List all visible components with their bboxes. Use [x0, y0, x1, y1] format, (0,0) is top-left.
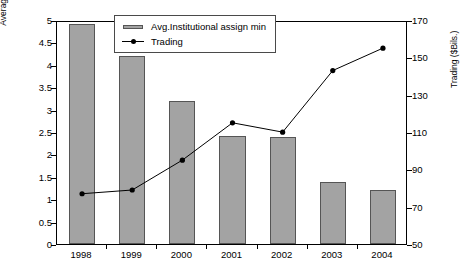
right-tick-label: 70	[412, 203, 446, 213]
right-tick-mark	[407, 96, 412, 97]
x-tick-mark	[156, 245, 157, 249]
right-tick-mark	[407, 21, 412, 22]
left-tick-mark	[51, 43, 56, 44]
left-tick-mark	[51, 21, 56, 22]
trading-point-1998	[79, 191, 84, 196]
right-tick-mark	[407, 133, 412, 134]
left-tick-mark	[51, 245, 56, 246]
left-tick-mark	[51, 133, 56, 134]
x-tick-mark	[106, 245, 107, 249]
bar-swatch-icon	[121, 21, 145, 33]
line-marker-icon	[121, 36, 145, 48]
left-tick-mark	[51, 111, 56, 112]
right-tick-label: 50	[412, 240, 446, 250]
left-tick-label: 1.5	[22, 173, 52, 183]
legend-item-line: Trading	[121, 35, 266, 48]
right-tick-mark	[407, 58, 412, 59]
left-tick-label: 3	[22, 106, 52, 116]
right-tick-label: 110	[412, 128, 446, 138]
right-tick-mark	[407, 245, 412, 246]
trading-point-2003	[330, 68, 335, 73]
right-tick-mark	[407, 170, 412, 171]
left-axis-title: Average institutional assignment min ($M…	[0, 0, 8, 36]
trading-point-1999	[130, 187, 135, 192]
right-tick-mark	[407, 208, 412, 209]
trading-point-2004	[380, 46, 385, 51]
left-tick-label: 3.5	[22, 83, 52, 93]
left-tick-label: 5	[22, 16, 52, 26]
left-tick-label: 4.5	[22, 38, 52, 48]
left-tick-mark	[51, 88, 56, 89]
left-tick-label: 2.5	[22, 128, 52, 138]
x-tick-mark	[357, 245, 358, 249]
left-tick-label: 0.5	[22, 218, 52, 228]
x-tick-label-1999: 1999	[106, 250, 156, 260]
left-tick-mark	[51, 200, 56, 201]
left-tick-label: 1	[22, 195, 52, 205]
x-tick-label-2004: 2004	[357, 250, 407, 260]
right-tick-label: 150	[412, 53, 446, 63]
chart-container: Average institutional assignment min ($M…	[0, 0, 463, 280]
legend-item-bar: Avg.Institutional assign min	[121, 20, 266, 33]
trading-point-2002	[280, 130, 285, 135]
left-tick-label: 2	[22, 150, 52, 160]
legend-label-bar: Avg.Institutional assign min	[151, 21, 266, 32]
chart-legend: Avg.Institutional assign min Trading	[114, 15, 276, 53]
x-tick-label-1998: 1998	[56, 250, 106, 260]
x-tick-label-2002: 2002	[257, 250, 307, 260]
left-tick-label: 4	[22, 61, 52, 71]
right-tick-label: 130	[412, 91, 446, 101]
trading-point-2001	[230, 120, 235, 125]
trading-line-series	[57, 22, 408, 246]
left-tick-mark	[51, 178, 56, 179]
x-tick-label-2003: 2003	[307, 250, 357, 260]
left-tick-mark	[51, 66, 56, 67]
x-tick-label-2001: 2001	[206, 250, 256, 260]
left-tick-label: 0	[22, 240, 52, 250]
x-tick-mark	[307, 245, 308, 249]
left-tick-mark	[51, 223, 56, 224]
trading-point-2000	[180, 158, 185, 163]
x-tick-mark	[206, 245, 207, 249]
left-axis-ticks: 00.511.522.533.544.55	[18, 0, 52, 245]
right-tick-label: 90	[412, 165, 446, 175]
left-tick-mark	[51, 155, 56, 156]
x-tick-mark	[257, 245, 258, 249]
x-tick-label-2000: 2000	[156, 250, 206, 260]
x-axis-ticks: 1998199920002001200220032004	[56, 250, 407, 266]
legend-label-line: Trading	[151, 36, 183, 47]
right-axis-ticks: 507090110130150170	[412, 0, 452, 245]
plot-area	[56, 21, 407, 245]
right-tick-label: 170	[412, 16, 446, 26]
